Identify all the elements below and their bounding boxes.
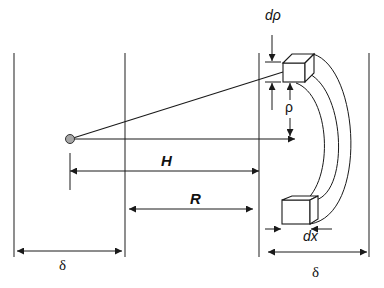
label-h: H: [161, 153, 172, 168]
delta-dimensions: [17, 251, 367, 252]
label-r: R: [190, 191, 201, 206]
bottom-box-front: [282, 200, 310, 224]
ring-arc-inner: [296, 83, 324, 203]
top-volume-element: [283, 54, 314, 82]
label-delta-left: δ: [59, 258, 66, 273]
d-rho-dimension: [265, 35, 281, 110]
diagram-canvas: [0, 0, 384, 288]
ring-arc-middle: [305, 72, 339, 200]
sight-line-to-element: [70, 72, 283, 139]
top-box-front: [283, 63, 305, 82]
label-dx: dx: [303, 229, 318, 243]
slab-boundaries: [14, 53, 369, 257]
bottom-box-side: [310, 196, 318, 224]
bottom-volume-element: [282, 196, 318, 224]
label-rho: ρ: [285, 100, 293, 114]
source-point: [66, 135, 75, 144]
label-d-rho: dρ: [265, 8, 281, 22]
label-delta-right: δ: [312, 265, 319, 280]
sight-lines: [70, 72, 295, 139]
